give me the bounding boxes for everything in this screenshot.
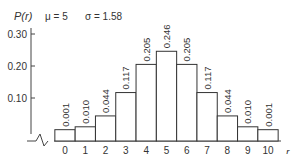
bar-value-label: 0.246 (161, 24, 172, 48)
x-tick-label: 8 (225, 145, 231, 154)
histogram-bar (238, 127, 258, 141)
x-tick-label: 10 (262, 145, 274, 154)
histogram-bar (156, 51, 176, 141)
y-tick-label: 0.30 (8, 29, 28, 40)
histogram-bar (217, 116, 237, 141)
histogram-bar (75, 127, 95, 141)
bar-value-label: 0.117 (120, 66, 131, 89)
y-tick-label: 0.10 (8, 93, 28, 104)
axis-break-icon (27, 134, 48, 146)
binomial-histogram: 0.100.200.30 012345678910 0.0010.0100.04… (0, 0, 301, 154)
mu-annotation: μ = 5 (45, 11, 68, 22)
bar-value-label: 0.205 (141, 38, 152, 62)
y-axis: 0.100.200.30 (8, 28, 35, 134)
bar-value-label: 0.044 (100, 89, 111, 113)
histogram-bar (136, 64, 156, 141)
x-axis-label: r (286, 147, 290, 154)
histogram-bar (258, 130, 278, 141)
x-tick-label: 2 (103, 145, 109, 154)
bars (55, 51, 278, 141)
x-tick-label: 9 (245, 145, 251, 154)
y-tick-label: 0.20 (8, 61, 28, 72)
x-tick-label: 6 (184, 145, 190, 154)
histogram-bar (177, 64, 197, 141)
histogram-bar (95, 116, 115, 141)
x-tick-label: 1 (83, 145, 89, 154)
bar-value-label: 0.001 (60, 103, 71, 127)
x-tick-label: 7 (204, 145, 210, 154)
bar-value-label: 0.205 (181, 38, 192, 62)
x-tick-label: 3 (123, 145, 129, 154)
bar-value-label: 0.010 (80, 100, 91, 124)
sigma-annotation: σ = 1.58 (85, 11, 122, 22)
bar-value-label: 0.117 (202, 66, 213, 89)
histogram-bar (116, 93, 136, 141)
histogram-bar (197, 93, 217, 141)
bar-value-label: 0.001 (263, 103, 274, 127)
bar-value-label: 0.010 (242, 100, 253, 124)
x-tick-label: 0 (62, 145, 68, 154)
x-tick-label: 5 (164, 145, 170, 154)
bar-value-label: 0.044 (222, 89, 233, 113)
histogram-bar (55, 130, 75, 141)
y-axis-label: P(r) (14, 10, 33, 22)
x-tick-label: 4 (143, 145, 149, 154)
